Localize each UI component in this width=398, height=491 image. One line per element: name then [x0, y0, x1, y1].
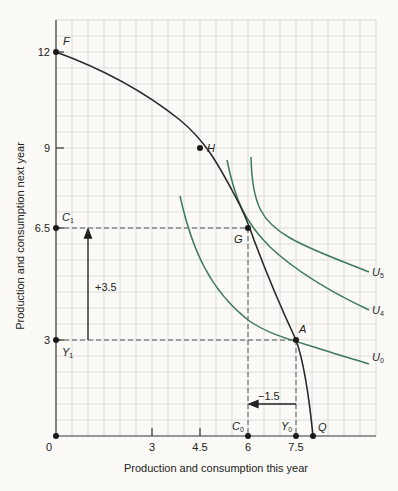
- arrow-left-head: [249, 401, 258, 408]
- curve-u5: [251, 157, 369, 272]
- label-y0: Y0: [281, 420, 292, 433]
- indifference-curves: [180, 157, 369, 364]
- label-u4: U4: [372, 304, 384, 317]
- y-axis-title: Production and consumption next year: [14, 142, 26, 330]
- y-tick-9: 9: [44, 142, 50, 154]
- x-tick-3: 3: [149, 441, 155, 453]
- point-y1: [53, 337, 59, 343]
- label-h: H: [207, 142, 215, 154]
- label-f: F: [63, 35, 71, 47]
- x-tick-4-5: 4.5: [192, 441, 207, 453]
- origin-label: 0: [46, 441, 52, 453]
- point-labels: F H G A Q C1 Y1 C0 Y0 U5 U4 U0 +3.5 −1.5: [62, 35, 384, 433]
- y-tick-3: 3: [44, 334, 50, 346]
- intertemporal-choice-chart: 12 9 6.5 3 0 3 4.5 6 7.5 F H G A Q C1 Y1…: [0, 0, 398, 491]
- label-q: Q: [318, 421, 327, 433]
- y-tick-12: 12: [38, 46, 50, 58]
- x-axis-title: Production and consumption this year: [124, 462, 308, 474]
- label-u5: U5: [372, 266, 384, 279]
- point-h: [197, 145, 203, 151]
- label-a: A: [298, 323, 306, 335]
- label-plus-3-5: +3.5: [95, 281, 117, 293]
- label-minus-1-5: −1.5: [258, 390, 280, 402]
- dashed-guides: [56, 228, 296, 436]
- x-tick-6: 6: [245, 441, 251, 453]
- point-c0: [245, 433, 251, 439]
- arrow-up-head: [85, 229, 92, 238]
- point-g: [245, 225, 251, 231]
- point-y0: [293, 433, 299, 439]
- point-q: [310, 433, 316, 439]
- point-origin: [53, 433, 59, 439]
- label-u0: U0: [372, 351, 384, 364]
- label-c0: C0: [232, 420, 244, 433]
- x-tick-7-5: 7.5: [288, 441, 303, 453]
- point-a: [293, 337, 299, 343]
- point-c1: [53, 225, 59, 231]
- y-tick-6-5: 6.5: [35, 222, 50, 234]
- curve-u0: [180, 196, 369, 364]
- point-f: [53, 49, 59, 55]
- label-g: G: [234, 233, 243, 245]
